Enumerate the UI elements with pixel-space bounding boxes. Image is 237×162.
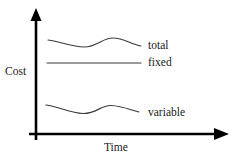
series-label-variable: variable <box>148 107 185 119</box>
x-axis-label: Time <box>104 142 128 154</box>
variable-cost-curve <box>46 105 139 114</box>
series-label-total: total <box>148 40 168 52</box>
series-label-fixed: fixed <box>148 57 172 69</box>
chart-canvas <box>0 0 237 162</box>
right-arrow-icon <box>214 128 229 140</box>
total-cost-curve <box>48 38 141 47</box>
up-arrow-icon <box>31 8 42 21</box>
y-axis-label: Cost <box>5 66 26 78</box>
cost-behavior-figure: Cost Time total fixed variable <box>0 0 237 162</box>
